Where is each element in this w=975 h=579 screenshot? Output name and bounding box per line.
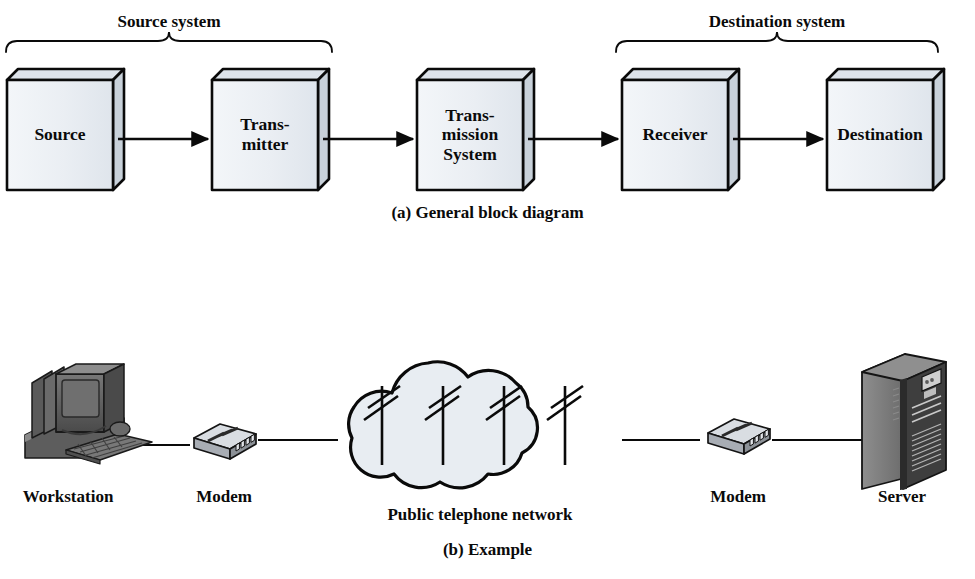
block-label-line: Destination — [827, 125, 933, 145]
block-label-transmission-system: Trans-missionSystem — [417, 106, 523, 165]
modem-right-icon — [708, 419, 770, 454]
block-label-line: System — [417, 145, 523, 165]
block-label-line: mitter — [212, 135, 318, 155]
block-label-transmitter: Trans-mitter — [212, 115, 318, 154]
node-label-modem-left: Modem — [64, 487, 384, 507]
node-label-server: Server — [742, 487, 975, 507]
node-label-public-telephone-network: Public telephone network — [320, 505, 640, 525]
block-label-receiver: Receiver — [622, 125, 728, 145]
workstation-icon — [25, 364, 152, 464]
block-label-line: Receiver — [622, 125, 728, 145]
server-icon — [862, 354, 946, 490]
system-label-source: Source system — [6, 12, 332, 32]
block-label-line: Trans- — [212, 115, 318, 135]
block-label-source: Source — [7, 125, 113, 145]
cloud-icon — [349, 362, 583, 488]
block-label-line: Source — [7, 125, 113, 145]
modem-left-icon — [194, 424, 256, 459]
figure-canvas: Source systemDestination system SourceTr… — [0, 0, 975, 579]
system-label-destination: Destination system — [616, 12, 938, 32]
block-label-line: mission — [417, 125, 523, 145]
caption-panel-b: (b) Example — [0, 540, 975, 560]
block-label-line: Trans- — [417, 106, 523, 126]
bracket-source-system — [6, 32, 332, 52]
bracket-destination-system — [616, 32, 938, 52]
caption-panel-a: (a) General block diagram — [0, 203, 975, 223]
telephone-pole-icon — [547, 386, 583, 465]
block-label-destination: Destination — [827, 125, 933, 145]
